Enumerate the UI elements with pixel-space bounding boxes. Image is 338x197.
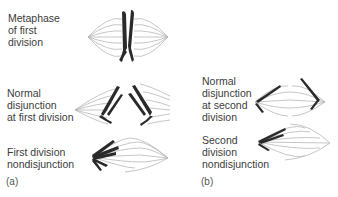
chromosomes-normal-first-left (99, 86, 123, 124)
chromosomes-nondisjunction-first (92, 140, 119, 171)
chromosomes-normal-first-right (128, 85, 153, 126)
spindle-normal-first-left (75, 88, 118, 124)
meiosis-diagram (0, 0, 338, 197)
chromosomes-metaphase (119, 10, 134, 62)
spindle-normal-second (255, 86, 325, 116)
chromosomes-nondisjunction-second (258, 128, 286, 151)
spindle-nondisjunction-second (258, 124, 330, 160)
spindle-metaphase (88, 18, 168, 56)
